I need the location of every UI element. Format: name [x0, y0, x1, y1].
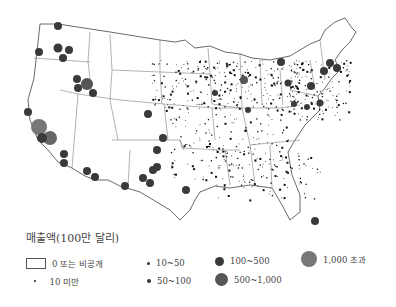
- small-dot: [291, 69, 292, 70]
- small-dot: [294, 113, 296, 115]
- small-dot: [297, 72, 298, 73]
- small-dot: [254, 149, 255, 150]
- small-dot: [266, 90, 267, 91]
- small-dot: [279, 98, 280, 99]
- small-dot: [256, 82, 257, 83]
- small-dot: [164, 98, 165, 99]
- small-dot: [209, 130, 210, 131]
- small-dot: [218, 148, 220, 150]
- small-dot: [203, 177, 204, 178]
- small-dot: [273, 61, 274, 62]
- small-dot: [262, 64, 263, 65]
- small-dot: [156, 90, 157, 91]
- legend-item-10-50: 10~50: [147, 258, 185, 268]
- small-dot: [182, 78, 183, 79]
- small-dot: [269, 116, 270, 117]
- small-dot: [302, 62, 304, 64]
- small-dot: [230, 165, 231, 166]
- small-dot: [224, 116, 225, 117]
- small-dot: [230, 176, 231, 177]
- small-dot: [301, 107, 303, 109]
- small-dot: [292, 92, 293, 93]
- small-dot: [320, 91, 321, 92]
- small-dot: [305, 165, 306, 166]
- revenue-circle: [139, 174, 147, 182]
- small-dot: [262, 104, 263, 105]
- small-dot: [349, 91, 351, 93]
- small-dot: [276, 106, 277, 107]
- small-dot: [183, 64, 184, 65]
- revenue-circle: [65, 46, 73, 54]
- small-dot: [263, 106, 264, 107]
- small-dot: [281, 68, 282, 69]
- small-dot: [207, 67, 208, 68]
- revenue-circle: [153, 146, 161, 154]
- small-dot: [296, 64, 297, 65]
- small-dot: [251, 61, 252, 62]
- small-dot: [270, 191, 271, 192]
- small-dot: [249, 164, 250, 165]
- revenue-circle: [81, 78, 93, 90]
- small-dot: [338, 81, 339, 82]
- small-dot: [213, 67, 215, 69]
- small-dot: [257, 158, 258, 159]
- dark-circle-icon: [215, 257, 224, 266]
- small-dot: [298, 159, 299, 160]
- small-dot: [203, 73, 204, 74]
- small-dot: [311, 103, 313, 105]
- small-dot: [217, 151, 219, 153]
- small-dot: [277, 69, 278, 70]
- small-dot: [214, 89, 215, 90]
- small-dot: [332, 81, 333, 82]
- small-dot: [291, 70, 292, 71]
- small-dot: [306, 95, 308, 97]
- small-dot: [271, 143, 272, 144]
- small-dot: [297, 77, 298, 78]
- small-dot: [316, 83, 317, 84]
- us-outline: [28, 18, 356, 220]
- small-dot: [277, 83, 278, 84]
- small-dot: [271, 68, 272, 69]
- small-dot: [263, 189, 265, 191]
- small-dot: [159, 63, 160, 64]
- small-dot: [295, 76, 296, 77]
- small-dot: [155, 99, 156, 100]
- small-dot: [232, 176, 233, 177]
- small-dot: [254, 183, 256, 185]
- small-dot: [204, 76, 206, 78]
- small-dot: [243, 153, 245, 155]
- small-dot: [208, 119, 209, 120]
- small-dot: [191, 147, 192, 148]
- small-dot: [268, 74, 269, 75]
- small-dot: [170, 99, 171, 100]
- small-dot: [314, 198, 315, 199]
- small-dot: [273, 99, 274, 100]
- small-dot: [260, 164, 261, 165]
- small-dot: [256, 118, 257, 119]
- small-dot: [326, 100, 327, 101]
- small-dot: [299, 168, 300, 169]
- small-dot: [336, 96, 337, 97]
- small-dot: [292, 86, 294, 88]
- small-dot: [280, 155, 282, 157]
- revenue-circle: [24, 108, 32, 116]
- small-dot: [187, 144, 188, 145]
- small-dot: [235, 151, 236, 152]
- small-dot: [216, 157, 217, 158]
- small-dot: [220, 165, 221, 166]
- small-dot: [236, 118, 237, 119]
- small-dot: [245, 92, 246, 93]
- small-dot: [166, 110, 168, 112]
- small-dot: [288, 107, 289, 108]
- small-dot: [269, 159, 270, 160]
- small-dot: [234, 74, 236, 76]
- small-dot: [205, 179, 207, 181]
- small-dot: [215, 69, 216, 70]
- small-dot: [256, 139, 257, 140]
- small-dot: [298, 91, 300, 93]
- small-dot: [253, 137, 254, 138]
- small-dot: [247, 98, 248, 99]
- small-dot: [209, 146, 210, 147]
- small-dot: [221, 99, 222, 100]
- small-dot: [207, 94, 208, 95]
